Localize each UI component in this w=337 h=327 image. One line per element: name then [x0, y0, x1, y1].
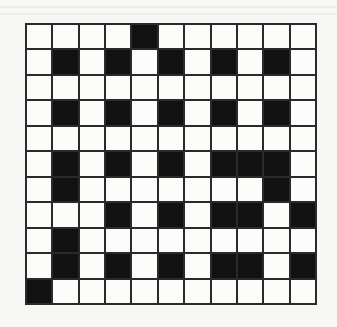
grid-empty-cell[interactable] [212, 280, 236, 303]
grid-empty-cell[interactable] [238, 76, 262, 99]
grid-empty-cell[interactable] [80, 203, 104, 226]
grid-empty-cell[interactable] [106, 178, 130, 201]
grid-empty-cell[interactable] [291, 178, 315, 201]
grid-empty-cell[interactable] [291, 280, 315, 303]
grid-empty-cell[interactable] [264, 229, 288, 252]
grid-empty-cell[interactable] [80, 101, 104, 124]
grid-empty-cell[interactable] [53, 280, 77, 303]
grid-block-cell [212, 254, 236, 277]
grid-empty-cell[interactable] [53, 203, 77, 226]
grid-empty-cell[interactable] [264, 280, 288, 303]
grid-empty-cell[interactable] [132, 254, 156, 277]
grid-block-cell [106, 101, 130, 124]
grid-empty-cell[interactable] [27, 152, 51, 175]
grid-empty-cell[interactable] [159, 127, 183, 150]
grid-empty-cell[interactable] [132, 152, 156, 175]
grid-empty-cell[interactable] [27, 25, 51, 48]
grid-empty-cell[interactable] [132, 178, 156, 201]
grid-empty-cell[interactable] [132, 229, 156, 252]
grid-empty-cell[interactable] [106, 76, 130, 99]
grid-empty-cell[interactable] [291, 229, 315, 252]
grid-empty-cell[interactable] [238, 280, 262, 303]
grid-empty-cell[interactable] [291, 152, 315, 175]
grid-empty-cell[interactable] [80, 25, 104, 48]
grid-empty-cell[interactable] [159, 229, 183, 252]
grid-empty-cell[interactable] [185, 178, 209, 201]
grid-empty-cell[interactable] [106, 229, 130, 252]
grid-empty-cell[interactable] [132, 280, 156, 303]
grid-empty-cell[interactable] [264, 76, 288, 99]
grid-empty-cell[interactable] [132, 76, 156, 99]
grid-empty-cell[interactable] [291, 101, 315, 124]
grid-empty-cell[interactable] [185, 280, 209, 303]
grid-empty-cell[interactable] [185, 101, 209, 124]
crossword-grid [25, 23, 317, 305]
grid-empty-cell[interactable] [212, 229, 236, 252]
grid-block-cell [159, 254, 183, 277]
grid-empty-cell[interactable] [264, 127, 288, 150]
grid-empty-cell[interactable] [212, 76, 236, 99]
grid-empty-cell[interactable] [27, 127, 51, 150]
grid-empty-cell[interactable] [264, 254, 288, 277]
grid-empty-cell[interactable] [185, 25, 209, 48]
grid-empty-cell[interactable] [238, 229, 262, 252]
grid-empty-cell[interactable] [185, 254, 209, 277]
grid-empty-cell[interactable] [80, 127, 104, 150]
grid-empty-cell[interactable] [159, 178, 183, 201]
grid-empty-cell[interactable] [27, 203, 51, 226]
grid-empty-cell[interactable] [106, 280, 130, 303]
grid-empty-cell[interactable] [238, 25, 262, 48]
grid-empty-cell[interactable] [53, 76, 77, 99]
grid-empty-cell[interactable] [291, 76, 315, 99]
grid-empty-cell[interactable] [212, 25, 236, 48]
grid-empty-cell[interactable] [238, 101, 262, 124]
grid-empty-cell[interactable] [27, 254, 51, 277]
grid-empty-cell[interactable] [106, 127, 130, 150]
grid-empty-cell[interactable] [264, 203, 288, 226]
grid-block-cell [53, 254, 77, 277]
grid-empty-cell[interactable] [53, 127, 77, 150]
grid-empty-cell[interactable] [185, 152, 209, 175]
grid-empty-cell[interactable] [80, 178, 104, 201]
grid-block-cell [106, 152, 130, 175]
grid-empty-cell[interactable] [159, 25, 183, 48]
grid-block-cell [212, 203, 236, 226]
grid-empty-cell[interactable] [212, 178, 236, 201]
grid-empty-cell[interactable] [132, 50, 156, 73]
grid-empty-cell[interactable] [185, 203, 209, 226]
grid-empty-cell[interactable] [27, 76, 51, 99]
grid-block-cell [53, 152, 77, 175]
grid-empty-cell[interactable] [80, 229, 104, 252]
grid-empty-cell[interactable] [185, 127, 209, 150]
grid-empty-cell[interactable] [185, 229, 209, 252]
grid-empty-cell[interactable] [80, 152, 104, 175]
grid-empty-cell[interactable] [291, 25, 315, 48]
grid-empty-cell[interactable] [159, 76, 183, 99]
grid-empty-cell[interactable] [27, 178, 51, 201]
grid-block-cell [159, 50, 183, 73]
grid-empty-cell[interactable] [185, 76, 209, 99]
grid-empty-cell[interactable] [53, 25, 77, 48]
grid-empty-cell[interactable] [132, 127, 156, 150]
grid-empty-cell[interactable] [238, 127, 262, 150]
grid-empty-cell[interactable] [80, 254, 104, 277]
grid-empty-cell[interactable] [238, 178, 262, 201]
grid-empty-cell[interactable] [291, 127, 315, 150]
grid-empty-cell[interactable] [27, 101, 51, 124]
grid-block-cell [53, 101, 77, 124]
grid-empty-cell[interactable] [159, 280, 183, 303]
grid-empty-cell[interactable] [27, 50, 51, 73]
grid-empty-cell[interactable] [291, 50, 315, 73]
grid-empty-cell[interactable] [132, 203, 156, 226]
grid-empty-cell[interactable] [80, 280, 104, 303]
grid-empty-cell[interactable] [80, 50, 104, 73]
grid-empty-cell[interactable] [264, 25, 288, 48]
grid-empty-cell[interactable] [132, 101, 156, 124]
grid-empty-cell[interactable] [212, 127, 236, 150]
grid-empty-cell[interactable] [106, 25, 130, 48]
grid-empty-cell[interactable] [27, 229, 51, 252]
grid-block-cell [264, 152, 288, 175]
grid-empty-cell[interactable] [185, 50, 209, 73]
grid-empty-cell[interactable] [238, 50, 262, 73]
grid-empty-cell[interactable] [80, 76, 104, 99]
